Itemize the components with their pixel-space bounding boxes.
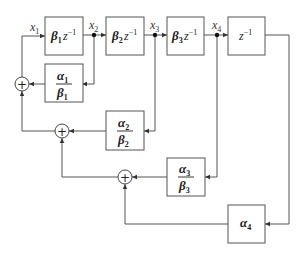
block-f1-gain: α1 β1: [45, 64, 83, 102]
node-label-x4: x4: [211, 18, 221, 34]
node-label-x3: x3: [149, 18, 159, 34]
wire-x2-to-f1: [82, 35, 94, 84]
summer-2: +: [55, 124, 69, 139]
wire-x3-to-f2: [144, 35, 155, 131]
wire-x4-to-f3: [205, 35, 217, 177]
node-label-x1: x1: [29, 20, 39, 36]
wire-b4-to-f4: [265, 35, 289, 224]
plus-icon: +: [120, 171, 130, 185]
block-b4-delay: z−1: [228, 17, 265, 55]
block-f4-gain: α4: [228, 205, 265, 243]
plus-icon: +: [57, 125, 67, 139]
plus-icon: +: [17, 78, 27, 92]
block-diagram: x1 x2 x3 x4 β1 z−1 β2 z−1 β3 z−1 z−1 α1 …: [0, 0, 298, 253]
block-b1-delay: β1 z−1: [45, 17, 83, 55]
block-f2-gain: α2 β2: [106, 111, 144, 150]
block-f3-gain: α3 β3: [167, 158, 205, 196]
summer-1: +: [15, 77, 29, 92]
summer-3: +: [118, 170, 132, 185]
node-label-x2: x2: [88, 18, 98, 34]
wire-sum1-to-b1: [22, 36, 45, 77]
block-b3-delay: β3 z−1: [167, 17, 204, 55]
block-b2-delay: β2 z−1: [106, 17, 144, 55]
